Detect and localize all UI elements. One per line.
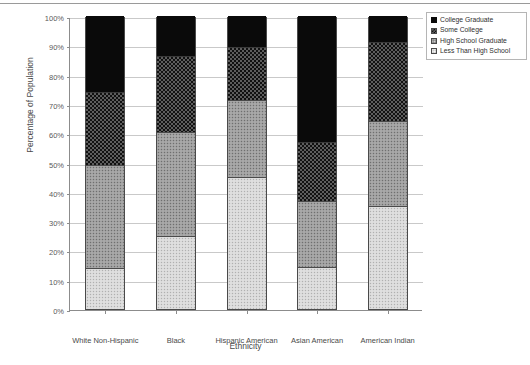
bar-segment-less-than-high-school[interactable] — [298, 267, 336, 309]
legend-label: Some College — [440, 27, 483, 34]
x-tick-mark — [247, 311, 248, 314]
bar-segment-college-graduate[interactable] — [228, 16, 266, 47]
legend-item-college-graduate[interactable]: College Graduate — [431, 17, 523, 24]
bar-segment-some-college[interactable] — [86, 92, 124, 165]
bar-segment-high-school-graduate[interactable] — [369, 121, 407, 206]
legend-swatch-icon — [431, 38, 437, 44]
legend-item-some-college[interactable]: Some College — [431, 27, 523, 34]
y-tick-mark — [67, 106, 70, 107]
y-tick-label: 10% — [32, 278, 64, 287]
y-tick-mark — [67, 252, 70, 253]
bar-segment-high-school-graduate[interactable] — [298, 201, 336, 267]
bar-segment-less-than-high-school[interactable] — [228, 177, 266, 309]
bar-segment-high-school-graduate[interactable] — [228, 100, 266, 178]
y-tick-label: 100% — [32, 14, 64, 23]
bar-segment-college-graduate[interactable] — [369, 16, 407, 42]
stacked-bar-chart-figure: Percentage of Population 0%10%20%30%40%5… — [0, 0, 530, 365]
y-tick-label: 60% — [32, 131, 64, 140]
bar-segment-some-college[interactable] — [228, 47, 266, 100]
legend-item-high-school-graduate[interactable]: High School Graduate — [431, 38, 523, 45]
x-tick-mark — [105, 311, 106, 314]
y-tick-mark — [67, 282, 70, 283]
bar-segment-college-graduate[interactable] — [86, 16, 124, 92]
bar-segment-less-than-high-school[interactable] — [86, 268, 124, 309]
legend-swatch-icon — [431, 28, 437, 34]
y-tick-label: 40% — [32, 190, 64, 199]
bar-segment-some-college[interactable] — [298, 142, 336, 201]
bar-asian-american[interactable] — [297, 17, 337, 310]
bar-black[interactable] — [156, 17, 196, 310]
bar-segment-some-college[interactable] — [157, 56, 195, 132]
y-tick-mark — [67, 47, 70, 48]
bar-segment-some-college[interactable] — [369, 42, 407, 121]
legend-label: College Graduate — [440, 17, 493, 24]
y-tick-mark — [67, 165, 70, 166]
y-tick-mark — [67, 194, 70, 195]
y-tick-mark — [67, 311, 70, 312]
y-tick-mark — [67, 77, 70, 78]
y-tick-label: 50% — [32, 161, 64, 170]
y-tick-mark — [67, 135, 70, 136]
y-tick-label: 30% — [32, 219, 64, 228]
y-tick-label: 80% — [32, 73, 64, 82]
bar-segment-less-than-high-school[interactable] — [369, 206, 407, 309]
bar-segment-college-graduate[interactable] — [157, 16, 195, 56]
bar-segment-high-school-graduate[interactable] — [157, 132, 195, 236]
y-tick-label: 70% — [32, 102, 64, 111]
x-tick-mark — [388, 311, 389, 314]
bar-segment-high-school-graduate[interactable] — [86, 165, 124, 268]
plot-area: 0%10%20%30%40%50%60%70%80%90%100%White N… — [69, 18, 422, 311]
bar-white-non-hispanic[interactable] — [85, 17, 125, 310]
x-tick-mark — [176, 311, 177, 314]
legend-item-less-than-high-school[interactable]: Less Than High School — [431, 48, 523, 55]
bar-american-indian[interactable] — [368, 17, 408, 310]
x-axis-title: Ethnicity — [69, 341, 422, 351]
bar-segment-college-graduate[interactable] — [298, 16, 336, 142]
legend-swatch-icon — [431, 17, 437, 23]
y-tick-mark — [67, 223, 70, 224]
y-tick-label: 0% — [32, 307, 64, 316]
bar-hispanic-american[interactable] — [227, 17, 267, 310]
legend-swatch-icon — [431, 48, 437, 54]
chart-legend: College GraduateSome CollegeHigh School … — [426, 12, 527, 60]
legend-label: High School Graduate — [440, 38, 507, 45]
legend-label: Less Than High School — [440, 48, 510, 55]
bar-segment-less-than-high-school[interactable] — [157, 236, 195, 309]
x-tick-mark — [317, 311, 318, 314]
y-tick-label: 90% — [32, 43, 64, 52]
y-tick-label: 20% — [32, 248, 64, 257]
y-tick-mark — [67, 18, 70, 19]
